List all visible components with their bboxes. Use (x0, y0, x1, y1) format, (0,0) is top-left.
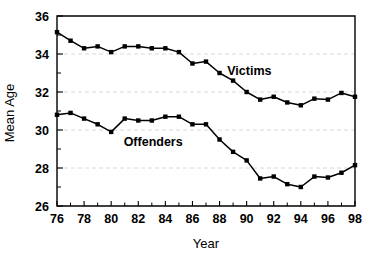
data-point-offenders-89 (231, 150, 235, 154)
x-tick-label-88: 88 (213, 212, 227, 226)
data-point-offenders-84 (163, 115, 167, 119)
x-tick-label-96: 96 (321, 212, 335, 226)
y-axis-ticks (57, 16, 63, 206)
data-point-offenders-92 (272, 174, 276, 178)
data-point-victims-87 (204, 59, 208, 63)
x-axis-tick-labels: 767880828486889092949698 (50, 212, 362, 226)
data-point-offenders-77 (68, 111, 72, 115)
data-point-offenders-79 (95, 122, 99, 126)
data-point-victims-82 (136, 44, 140, 48)
data-point-offenders-82 (136, 118, 140, 122)
x-tick-label-78: 78 (77, 212, 91, 226)
data-point-victims-98 (353, 95, 357, 99)
y-tick-label-32: 32 (35, 86, 49, 100)
x-tick-label-82: 82 (131, 212, 145, 226)
data-point-offenders-95 (312, 174, 316, 178)
data-point-victims-76 (55, 30, 59, 34)
data-point-victims-81 (123, 44, 127, 48)
x-tick-label-80: 80 (104, 212, 118, 226)
data-point-offenders-94 (299, 185, 303, 189)
gridlines (57, 54, 355, 168)
data-point-offenders-85 (177, 115, 181, 119)
data-point-offenders-76 (55, 113, 59, 117)
y-tick-label-26: 26 (35, 200, 49, 214)
series-label-offenders: Offenders (124, 135, 183, 149)
data-point-victims-79 (95, 44, 99, 48)
data-point-offenders-97 (339, 171, 343, 175)
y-tick-label-30: 30 (35, 124, 49, 138)
series-annotations: VictimsOffenders (124, 64, 272, 149)
x-axis-title: Year (193, 236, 220, 251)
plot-border (57, 16, 355, 206)
data-point-victims-86 (190, 61, 194, 65)
data-point-offenders-98 (353, 163, 357, 167)
data-point-victims-93 (285, 100, 289, 104)
data-point-victims-97 (339, 91, 343, 95)
y-tick-label-34: 34 (35, 48, 49, 62)
x-tick-label-98: 98 (348, 212, 362, 226)
series-line-victims (57, 32, 355, 105)
data-point-victims-84 (163, 46, 167, 50)
data-point-victims-83 (150, 46, 154, 50)
data-point-victims-80 (109, 50, 113, 54)
data-point-victims-95 (312, 96, 316, 100)
mean-age-line-chart: 262830323436 767880828486889092949698 Vi… (0, 0, 375, 257)
data-point-offenders-88 (217, 137, 221, 141)
y-axis-title: Mean Age (2, 84, 17, 143)
data-point-offenders-86 (190, 122, 194, 126)
data-point-offenders-78 (82, 116, 86, 120)
y-tick-label-36: 36 (35, 10, 49, 24)
series-victims (55, 30, 357, 108)
x-tick-label-84: 84 (158, 212, 172, 226)
data-point-victims-78 (82, 46, 86, 50)
data-point-offenders-83 (150, 118, 154, 122)
x-tick-label-90: 90 (240, 212, 254, 226)
data-point-victims-96 (326, 97, 330, 101)
data-point-victims-92 (272, 95, 276, 99)
data-point-victims-89 (231, 78, 235, 82)
data-point-victims-88 (217, 71, 221, 75)
data-point-offenders-96 (326, 175, 330, 179)
series-label-victims: Victims (227, 64, 271, 78)
x-tick-label-92: 92 (267, 212, 281, 226)
x-axis-ticks (57, 201, 355, 206)
chart-container: 262830323436 767880828486889092949698 Vi… (0, 0, 375, 257)
data-point-offenders-93 (285, 182, 289, 186)
data-point-offenders-80 (109, 130, 113, 134)
plot-frame (57, 16, 355, 206)
data-point-victims-85 (177, 50, 181, 54)
y-tick-label-28: 28 (35, 162, 49, 176)
data-point-victims-77 (68, 39, 72, 43)
data-point-offenders-87 (204, 122, 208, 126)
data-point-victims-91 (258, 97, 262, 101)
x-tick-label-76: 76 (50, 212, 64, 226)
data-point-offenders-90 (244, 158, 248, 162)
x-tick-label-86: 86 (186, 212, 200, 226)
series-offenders (55, 111, 357, 190)
x-tick-label-94: 94 (294, 212, 308, 226)
data-point-offenders-91 (258, 176, 262, 180)
data-point-victims-94 (299, 103, 303, 107)
y-axis-tick-labels: 262830323436 (35, 10, 49, 214)
data-point-victims-90 (244, 90, 248, 94)
data-point-offenders-81 (123, 116, 127, 120)
